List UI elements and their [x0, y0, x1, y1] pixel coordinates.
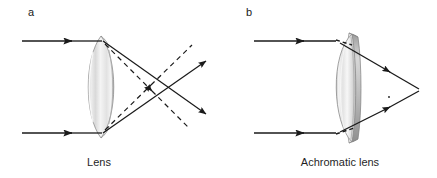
panel-b-common-focal-point [388, 96, 390, 98]
panel-b-letter: b [246, 6, 252, 18]
panel-a-letter: a [28, 6, 35, 18]
figure-background [0, 0, 437, 178]
optics-figure: a Lens b [0, 0, 437, 178]
panel-b-caption: Achromatic lens [301, 156, 380, 168]
panel-a-caption: Lens [87, 156, 111, 168]
